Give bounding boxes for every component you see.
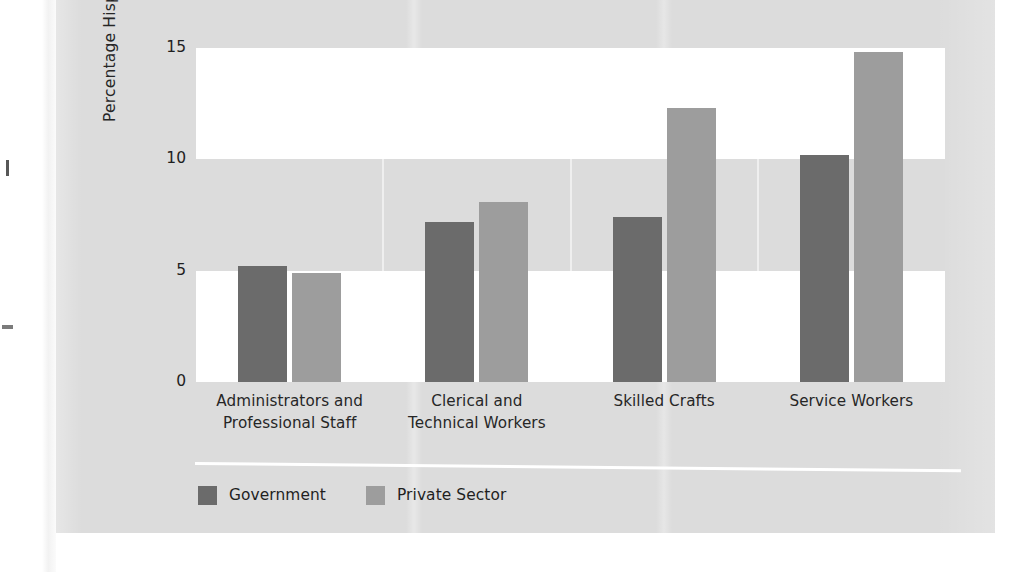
x-axis-label: Service Workers bbox=[758, 391, 945, 413]
scan-artifact-dash bbox=[2, 325, 13, 329]
bar-government bbox=[800, 155, 849, 382]
legend-swatch-icon bbox=[198, 486, 217, 505]
bar-government bbox=[425, 222, 474, 382]
page-gutter bbox=[42, 0, 56, 572]
x-axis-category-labels: Administrators andProfessional StaffCler… bbox=[196, 391, 945, 447]
legend-item: Private Sector bbox=[366, 486, 506, 505]
y-axis-ticks: 051015 bbox=[146, 48, 186, 382]
bar-government bbox=[613, 217, 662, 382]
y-tick-label: 10 bbox=[152, 151, 186, 167]
x-axis-label-line: Administrators and bbox=[196, 391, 383, 413]
x-axis-label: Clerical andTechnical Workers bbox=[383, 391, 570, 434]
legend-label: Government bbox=[229, 486, 326, 504]
legend-swatch-icon bbox=[366, 486, 385, 505]
x-axis-label-line: Service Workers bbox=[758, 391, 945, 413]
legend-label: Private Sector bbox=[397, 486, 506, 504]
bar-private-sector bbox=[292, 273, 341, 382]
scan-artifact-mark bbox=[6, 160, 9, 176]
y-tick-label: 0 bbox=[152, 374, 186, 390]
chart-legend: GovernmentPrivate Sector bbox=[198, 484, 546, 506]
x-axis-label: Skilled Crafts bbox=[571, 391, 758, 413]
x-axis-label-line: Clerical and bbox=[383, 391, 570, 413]
background-band-upper bbox=[196, 48, 945, 159]
y-axis-title: Percentage Hispanic bbox=[101, 0, 123, 122]
x-axis-label-line: Technical Workers bbox=[383, 413, 570, 435]
bar-government bbox=[238, 266, 287, 382]
bar-private-sector bbox=[667, 108, 716, 382]
y-tick-label: 5 bbox=[152, 263, 186, 279]
x-axis-label-line: Skilled Crafts bbox=[571, 391, 758, 413]
legend-item: Government bbox=[198, 486, 326, 505]
y-tick-label: 15 bbox=[152, 40, 186, 56]
x-axis-label-line: Professional Staff bbox=[196, 413, 383, 435]
bar-private-sector bbox=[854, 52, 903, 382]
plot-area bbox=[196, 48, 945, 382]
x-axis-label: Administrators andProfessional Staff bbox=[196, 391, 383, 434]
bar-private-sector bbox=[479, 202, 528, 382]
